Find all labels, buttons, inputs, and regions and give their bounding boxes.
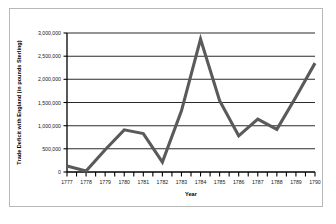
y-tick-label-1500000: 1,500,000	[38, 100, 61, 106]
y-tick-label-2000000: 2,000,000	[38, 76, 61, 82]
x-tick-label-1778: 1778	[80, 179, 92, 185]
y-tick-label-3000000: 3,000,000	[38, 30, 61, 36]
x-tick-label-1787: 1787	[252, 179, 264, 185]
y-axis-tick-labels: 3,000,000 2,500,000 2,000,000 1,500,000 …	[38, 30, 61, 175]
y-axis-title: Trade Deficit with England (in pounds St…	[16, 40, 22, 164]
x-tick-label-1788: 1788	[271, 179, 283, 185]
x-axis-ticks	[67, 172, 315, 177]
x-tick-label-1783: 1783	[176, 179, 188, 185]
x-tick-label-1781: 1781	[138, 179, 150, 185]
y-tick-label-0: 0	[58, 169, 61, 175]
x-tick-label-1785: 1785	[214, 179, 226, 185]
y-tick-label-500000: 500,000	[42, 146, 61, 152]
chart-figure: 3,000,000 2,500,000 2,000,000 1,500,000 …	[9, 8, 323, 207]
x-tick-label-1786: 1786	[233, 179, 245, 185]
x-tick-label-1780: 1780	[118, 179, 130, 185]
x-tick-label-1784: 1784	[195, 179, 207, 185]
x-tick-label-1777: 1777	[61, 179, 73, 185]
x-tick-label-1789: 1789	[290, 179, 302, 185]
line-chart: 3,000,000 2,500,000 2,000,000 1,500,000 …	[10, 9, 322, 206]
y-tick-label-1000000: 1,000,000	[38, 123, 61, 129]
x-axis-tick-labels: 1777177817791780178117821783178417851786…	[61, 179, 321, 185]
x-tick-label-1782: 1782	[157, 179, 169, 185]
x-tick-label-1779: 1779	[99, 179, 111, 185]
x-axis-title: Year	[185, 191, 198, 197]
x-tick-label-1790: 1790	[309, 179, 321, 185]
y-tick-label-2500000: 2,500,000	[38, 53, 61, 59]
